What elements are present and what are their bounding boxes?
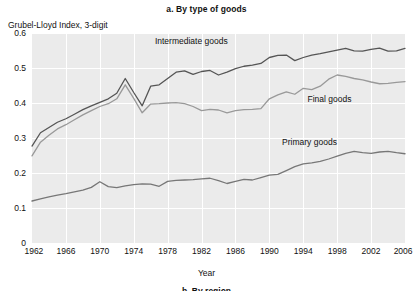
y-axis-tick-labels: 0.60.50.40.30.20.10 xyxy=(0,33,30,243)
y-tick-label: 0.1 xyxy=(14,203,26,213)
gridline-vertical xyxy=(405,33,406,243)
page-title: a. By type of goods xyxy=(0,4,413,14)
y-tick-label: 0.3 xyxy=(14,133,26,143)
x-tick-label: 1994 xyxy=(294,246,313,256)
y-tick-label: 0.4 xyxy=(14,98,26,108)
x-tick-label: 1982 xyxy=(192,246,211,256)
series-label: Final goods xyxy=(308,94,352,104)
x-tick-label: 1998 xyxy=(328,246,347,256)
x-axis-tick-labels: 1962196619701974197819821986199019941998… xyxy=(32,246,405,260)
x-tick-label: 1978 xyxy=(158,246,177,256)
x-tick-label: 2006 xyxy=(394,246,413,256)
series-line xyxy=(32,75,405,156)
x-tick-label: 1990 xyxy=(260,246,279,256)
series-label: Primary goods xyxy=(282,137,337,147)
x-tick-label: 1966 xyxy=(56,246,75,256)
x-tick-label: 1962 xyxy=(24,246,43,256)
x-tick-label: 1970 xyxy=(90,246,109,256)
x-tick-label: 2002 xyxy=(362,246,381,256)
y-tick-label: 0.6 xyxy=(14,28,26,38)
x-tick-label: 1986 xyxy=(226,246,245,256)
series-label: Intermediate goods xyxy=(155,36,228,46)
chart-figure: a. By type of goods Grubel-Lloyd Index, … xyxy=(0,0,413,291)
x-axis-title: Year xyxy=(0,268,413,278)
clipped-next-panel-caption: b. By region xyxy=(0,286,413,291)
y-tick-label: 0.2 xyxy=(14,168,26,178)
x-tick-label: 1974 xyxy=(124,246,143,256)
y-tick-label: 0.5 xyxy=(14,63,26,73)
series-lines xyxy=(32,33,405,243)
plot-area xyxy=(32,33,405,243)
series-line xyxy=(32,151,405,201)
